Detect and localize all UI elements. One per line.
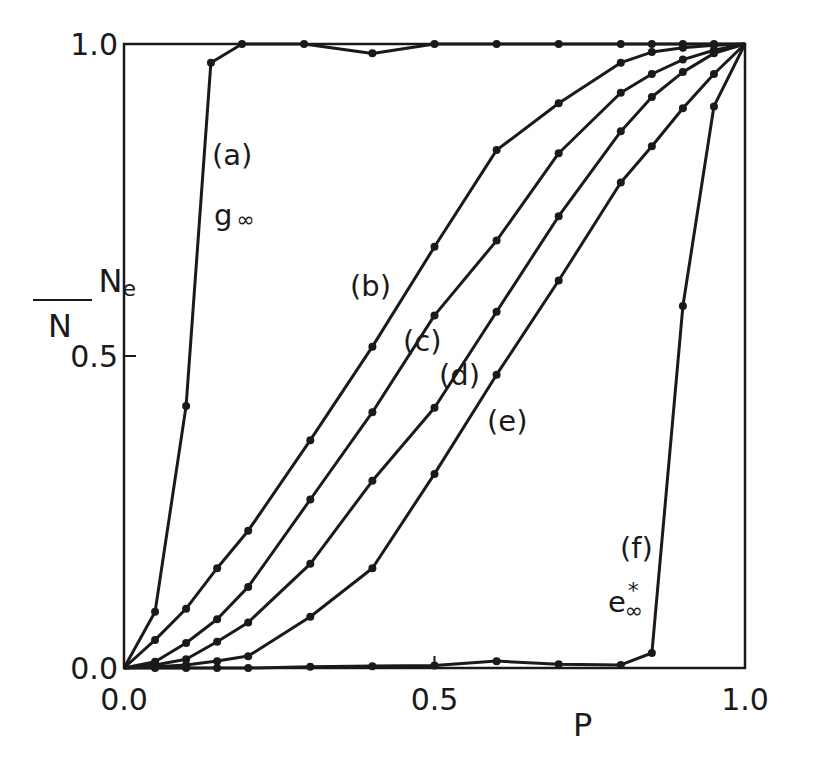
data-point bbox=[710, 102, 718, 110]
data-point bbox=[617, 127, 625, 135]
data-point bbox=[431, 470, 439, 478]
y-label-numerator: Ne bbox=[99, 262, 136, 301]
data-point bbox=[555, 99, 563, 107]
data-point bbox=[617, 179, 625, 187]
data-point bbox=[555, 40, 563, 48]
data-point bbox=[493, 146, 501, 154]
data-point bbox=[648, 40, 656, 48]
data-point bbox=[244, 664, 252, 672]
data-point bbox=[213, 657, 221, 665]
data-point bbox=[213, 664, 221, 672]
data-point bbox=[617, 89, 625, 97]
data-point bbox=[213, 564, 221, 572]
x-tick-label: 0.0 bbox=[100, 682, 148, 717]
chart: 0.00.51.00.00.51.0 (a)g∞(b)(c)(d)(e)(f)e… bbox=[0, 0, 814, 775]
series-annotation: (c) bbox=[403, 324, 442, 358]
data-point bbox=[555, 149, 563, 157]
data-point bbox=[182, 639, 190, 647]
data-point bbox=[679, 302, 687, 310]
data-point bbox=[617, 661, 625, 669]
data-point bbox=[710, 70, 718, 78]
y-tick-label: 0.0 bbox=[70, 651, 118, 686]
data-point bbox=[617, 59, 625, 67]
data-point bbox=[306, 436, 314, 444]
data-point bbox=[151, 636, 159, 644]
data-point bbox=[431, 243, 439, 251]
data-point bbox=[244, 618, 252, 626]
data-point bbox=[493, 308, 501, 316]
data-point bbox=[244, 652, 252, 660]
data-point bbox=[679, 104, 687, 112]
data-point bbox=[679, 56, 687, 64]
data-point bbox=[182, 664, 190, 672]
y-tick-label: 0.5 bbox=[70, 339, 118, 374]
data-point bbox=[306, 560, 314, 568]
data-point bbox=[244, 527, 252, 535]
data-point bbox=[207, 59, 215, 67]
data-point bbox=[213, 615, 221, 623]
data-point bbox=[431, 311, 439, 319]
data-point bbox=[493, 40, 501, 48]
data-point bbox=[648, 70, 656, 78]
data-point bbox=[648, 142, 656, 150]
data-point bbox=[431, 40, 439, 48]
data-point bbox=[648, 93, 656, 101]
data-point bbox=[368, 662, 376, 670]
x-tick-label: 0.5 bbox=[411, 682, 459, 717]
series-annotation: (d) bbox=[439, 358, 480, 392]
data-point bbox=[679, 68, 687, 76]
data-point bbox=[182, 605, 190, 613]
data-point bbox=[431, 404, 439, 412]
data-point bbox=[648, 48, 656, 56]
series-annotation: (e) bbox=[487, 404, 527, 438]
data-point bbox=[555, 276, 563, 284]
series-annotation: e*∞ bbox=[608, 578, 643, 623]
data-point bbox=[306, 496, 314, 504]
data-point bbox=[151, 608, 159, 616]
data-point bbox=[238, 40, 246, 48]
x-axis-label: P bbox=[573, 706, 592, 744]
y-axis-label: Ne N bbox=[33, 262, 136, 345]
data-point bbox=[493, 657, 501, 665]
series-annotation: g∞ bbox=[214, 198, 255, 232]
data-point bbox=[555, 660, 563, 668]
data-point bbox=[182, 402, 190, 410]
series-annotation: (b) bbox=[350, 269, 391, 303]
data-point bbox=[431, 662, 439, 670]
y-label-denominator: N bbox=[48, 307, 72, 345]
data-point bbox=[368, 49, 376, 57]
data-point bbox=[648, 649, 656, 657]
data-point bbox=[555, 212, 563, 220]
data-point bbox=[368, 477, 376, 485]
data-point bbox=[151, 664, 159, 672]
data-point bbox=[244, 583, 252, 591]
data-point bbox=[617, 40, 625, 48]
series-annotation: (a) bbox=[212, 138, 252, 172]
data-point bbox=[213, 638, 221, 646]
x-tick-label: 1.0 bbox=[721, 682, 769, 717]
data-point bbox=[493, 371, 501, 379]
series-labels: (a)g∞(b)(c)(d)(e)(f)e*∞ bbox=[212, 138, 653, 623]
data-point bbox=[368, 408, 376, 416]
data-point bbox=[306, 613, 314, 621]
data-point bbox=[679, 44, 687, 52]
data-point bbox=[306, 663, 314, 671]
data-point bbox=[710, 49, 718, 57]
data-point bbox=[368, 564, 376, 572]
y-tick-label: 1.0 bbox=[70, 27, 118, 62]
data-point bbox=[368, 343, 376, 351]
series-annotation: (f) bbox=[620, 531, 653, 565]
data-point bbox=[300, 40, 308, 48]
data-point bbox=[493, 237, 501, 245]
